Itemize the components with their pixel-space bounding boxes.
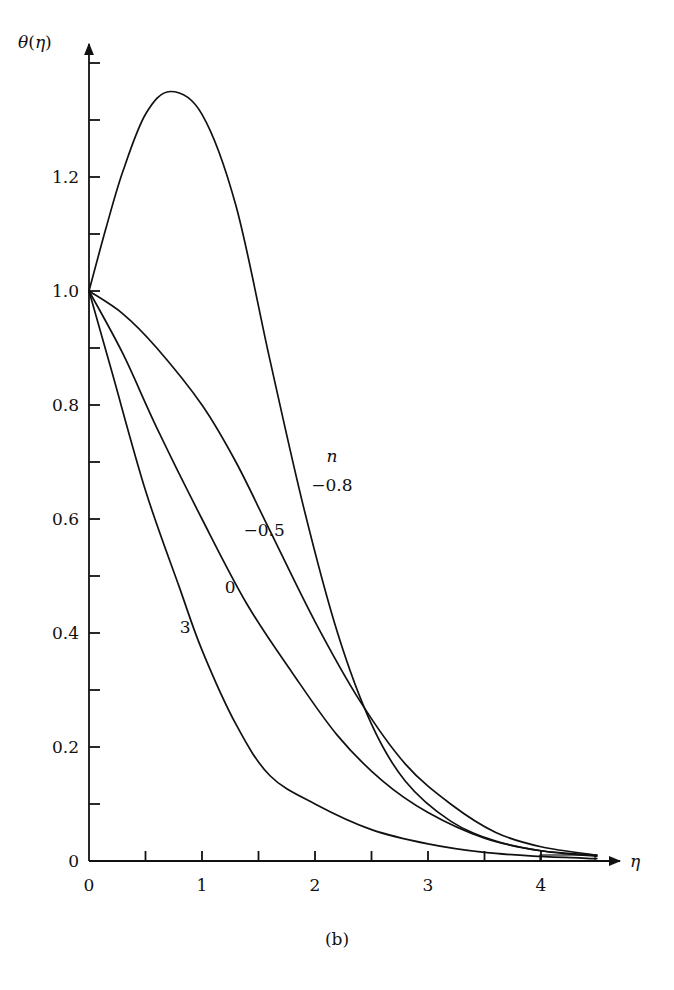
curve-n-0 [89,291,598,856]
y-ticks: 00.20.40.60.81.01.2 [52,63,100,871]
x-tick-label: 2 [310,875,321,895]
y-tick-label: 1.0 [52,281,79,301]
y-tick-label: 0.8 [52,395,79,415]
curve-label: −0.5 [244,520,285,540]
figure-caption: (b) [325,929,349,949]
chart: 00.20.40.60.81.01.2 01234 θ(η) η n−0.8−0… [0,0,674,990]
y-tick-label: 0.6 [52,509,79,529]
x-axis-label: η [630,851,641,871]
curve-label: n [326,446,337,466]
x-ticks: 01234 [84,851,547,895]
curve-n-3 [89,291,598,859]
y-tick-label: 0 [68,851,79,871]
x-tick-label: 3 [423,875,434,895]
curve-n--0.8 [89,92,598,856]
x-tick-label: 4 [536,875,547,895]
y-tick-label: 0.2 [52,737,79,757]
y-axis-label: θ(η) [18,32,52,52]
curve-label: 0 [225,577,236,597]
x-tick-label: 0 [84,875,95,895]
y-tick-label: 1.2 [52,167,79,187]
y-tick-label: 0.4 [52,623,79,643]
axes: 00.20.40.60.81.01.2 01234 [52,44,620,895]
curve-label: −0.8 [311,475,352,495]
curve-n--0.5 [89,291,598,855]
curve-labels: n−0.8−0.503 [180,446,353,637]
x-tick-label: 1 [197,875,208,895]
curve-label: 3 [180,617,191,637]
